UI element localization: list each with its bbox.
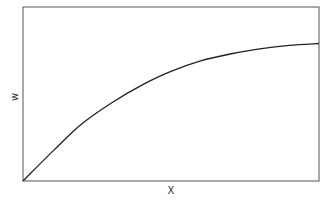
chart-background xyxy=(0,0,332,204)
y-axis-label: w xyxy=(9,93,20,101)
line-chart: X w xyxy=(0,0,332,204)
x-axis-label: X xyxy=(168,185,175,196)
